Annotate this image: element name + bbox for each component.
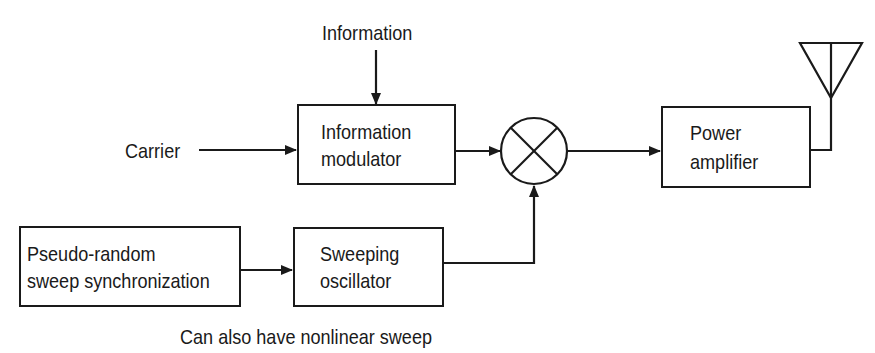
power-amplifier-block: Power amplifier [661,106,811,188]
sweeping-oscillator-block: Sweeping oscillator [293,227,444,307]
information-modulator-block: Information modulator [297,104,456,185]
oscillator-to-mixer-arrow [443,186,534,263]
information-modulator-line2: modulator [321,146,401,171]
power-amplifier-line1: Power [690,120,741,145]
power-amplifier-line2: amplifier [690,149,758,174]
pseudo-random-sync-block: Pseudo-random sweep synchronization [19,226,241,307]
sweeping-oscillator-line2: oscillator [320,268,391,293]
pseudo-random-line2: sweep synchronization [27,268,210,293]
information-modulator-line1: Information [321,119,411,144]
carrier-input-label: Carrier [125,138,180,163]
caption: Can also have nonlinear sweep [180,324,432,349]
pseudo-random-line1: Pseudo-random [27,241,156,266]
sweeping-oscillator-line1: Sweeping [320,241,399,266]
mixer-icon [501,118,567,184]
information-input-label: Information [322,20,412,45]
